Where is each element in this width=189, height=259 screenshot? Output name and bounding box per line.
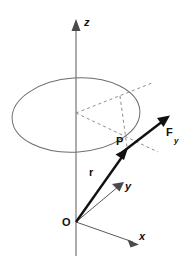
- z-axis-label: z: [83, 16, 90, 28]
- f-vector-subscript-label: y: [173, 136, 179, 145]
- x-axis-arrowhead: [128, 240, 140, 248]
- z-axis-arrowhead: [72, 19, 81, 31]
- point-p-label: P: [116, 135, 123, 147]
- y-axis-label: y: [124, 180, 132, 192]
- dashed-radius-upper: [76, 83, 152, 113]
- f-vector-label: F: [166, 126, 173, 138]
- coordinate-system-diagram: z x y O P r F y: [0, 0, 189, 259]
- origin-label: O: [62, 216, 71, 228]
- diagram-canvas: z x y O P r F y: [0, 0, 189, 259]
- x-axis-label: x: [138, 230, 146, 242]
- r-vector-label: r: [89, 166, 94, 178]
- x-axis-line: [76, 222, 133, 242]
